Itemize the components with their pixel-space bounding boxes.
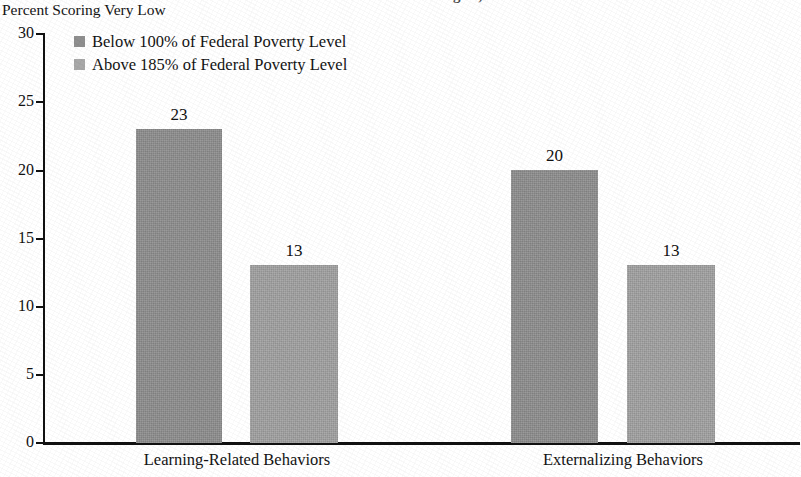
bar-externalizing-below-100[interactable] <box>511 170 598 443</box>
bar-value-learning-related-below-100: 23 <box>136 106 222 123</box>
bar-chart-plot: 0 5 10 15 20 25 30 23 13 20 13 Learning-… <box>0 0 801 477</box>
y-tick-label-0: 0 <box>2 434 34 450</box>
legend-item-above-185[interactable]: Above 185% of Federal Poverty Level <box>74 53 347 76</box>
bar-value-learning-related-above-185: 13 <box>250 242 338 259</box>
y-tick-mark-0 <box>36 442 44 444</box>
y-tick-mark-5 <box>36 374 44 376</box>
y-tick-mark-20 <box>36 170 44 172</box>
y-tick-mark-10 <box>36 306 44 308</box>
x-category-label-learning-related: Learning-Related Behaviors <box>92 450 382 469</box>
chart-legend: Below 100% of Federal Poverty Level Abov… <box>74 30 347 76</box>
y-tick-mark-30 <box>36 33 44 35</box>
legend-swatch-icon-below-100 <box>74 36 85 47</box>
legend-swatch-icon-above-185 <box>74 59 85 70</box>
y-tick-mark-15 <box>36 238 44 240</box>
legend-item-below-100[interactable]: Below 100% of Federal Poverty Level <box>74 30 347 53</box>
legend-label-below-100: Below 100% of Federal Poverty Level <box>92 33 346 51</box>
bar-value-externalizing-below-100: 20 <box>511 147 598 164</box>
bar-learning-related-below-100[interactable] <box>136 129 222 443</box>
y-tick-label-15: 15 <box>2 230 34 246</box>
y-tick-label-10: 10 <box>2 298 34 314</box>
y-tick-label-5: 5 <box>2 366 34 382</box>
y-tick-label-30: 30 <box>2 25 34 41</box>
bar-learning-related-above-185[interactable] <box>250 265 338 443</box>
legend-label-above-185: Above 185% of Federal Poverty Level <box>92 56 347 74</box>
y-tick-label-25: 25 <box>2 93 34 109</box>
y-tick-label-20: 20 <box>2 162 34 178</box>
bar-externalizing-above-185[interactable] <box>627 265 715 443</box>
y-tick-mark-25 <box>36 101 44 103</box>
bar-value-externalizing-above-185: 13 <box>627 242 715 259</box>
x-category-label-externalizing: Externalizing Behaviors <box>478 450 768 469</box>
